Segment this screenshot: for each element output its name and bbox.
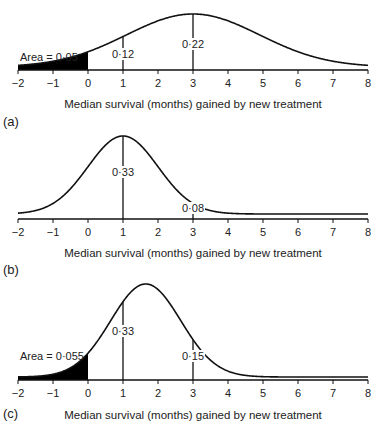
panel-0-tick-label: 2 <box>155 77 161 89</box>
panel-1-x-axis-label: Median survival (months) gained by new t… <box>64 247 322 259</box>
panel-1-tick-label: 7 <box>330 226 336 238</box>
panel-0-marker-label: 0·12 <box>112 48 134 60</box>
panel-0-tick-label: −2 <box>12 77 25 89</box>
panel-1-tick-label: −1 <box>47 226 60 238</box>
figure: −2−10123456780·120·22Area = 0·05Median s… <box>0 0 384 427</box>
panel-1-panel-label: (b) <box>3 262 19 277</box>
panel-2-tick-label: 7 <box>330 387 336 399</box>
panel-2-tick-label: 2 <box>155 387 161 399</box>
panel-2-x-axis-label: Median survival (months) gained by new t… <box>64 409 322 421</box>
panel-1-tick-label: −2 <box>12 226 25 238</box>
panel-2-tick-label: −1 <box>47 387 60 399</box>
panel-0-tick-label: 1 <box>120 77 126 89</box>
panel-0-tick-label: 3 <box>190 77 196 89</box>
panel-1-marker-label: 0·33 <box>112 166 134 178</box>
panel-0-tick-label: 8 <box>365 77 371 89</box>
panel-2-marker-label: 0·15 <box>182 350 204 362</box>
panel-0-tick-label: 0 <box>85 77 91 89</box>
panel-2-panel-label: (c) <box>3 406 18 421</box>
panel-0-tick-label: −1 <box>47 77 60 89</box>
panel-1-tick-label: 3 <box>190 226 196 238</box>
panel-1-tick-label: 1 <box>120 226 126 238</box>
panel-1-tick-label: 2 <box>155 226 161 238</box>
panel-0-tick-label: 4 <box>225 77 231 89</box>
panel-2-tick-label: 3 <box>190 387 196 399</box>
panel-0-tick-label: 6 <box>295 77 301 89</box>
panel-0-tick-label: 5 <box>260 77 266 89</box>
panel-2-tick-label: 0 <box>85 387 91 399</box>
panel-0-tick-label: 7 <box>330 77 336 89</box>
panel-2-tick-label: 4 <box>225 387 231 399</box>
panel-2-tick-label: 5 <box>260 387 266 399</box>
panel-2-area-label: Area = 0·055 <box>20 350 84 362</box>
panel-2-marker-label: 0·33 <box>112 325 134 337</box>
panel-1-tick-label: 4 <box>225 226 231 238</box>
panel-0-marker-label: 0·22 <box>182 38 204 50</box>
panel-1-tick-label: 6 <box>295 226 301 238</box>
panel-1-tick-label: 5 <box>260 226 266 238</box>
panel-1-marker-label: 0·08 <box>182 202 204 214</box>
panel-2-tick-label: 6 <box>295 387 301 399</box>
panel-1-tick-label: 0 <box>85 226 91 238</box>
panel-2-tick-label: 1 <box>120 387 126 399</box>
panel-0-area-label: Area = 0·05 <box>20 51 78 63</box>
panel-1-tick-label: 8 <box>365 226 371 238</box>
panel-2-tick-label: 8 <box>365 387 371 399</box>
panel-0-x-axis-label: Median survival (months) gained by new t… <box>64 98 322 110</box>
panel-0-panel-label: (a) <box>3 114 19 129</box>
panel-2-tick-label: −2 <box>12 387 25 399</box>
